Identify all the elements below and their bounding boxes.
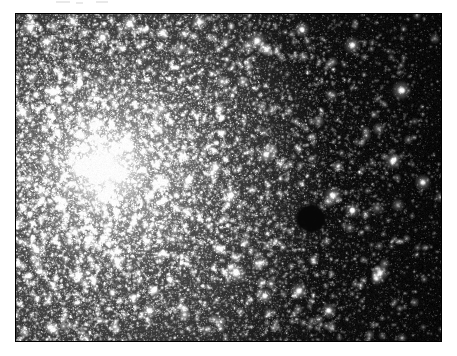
residual-mark [56, 1, 70, 3]
residual-mark [76, 2, 83, 4]
residual-mark [96, 1, 108, 3]
starfield-canvas [15, 13, 442, 342]
page-root [0, 0, 457, 356]
globular-cluster-figure [15, 13, 442, 342]
